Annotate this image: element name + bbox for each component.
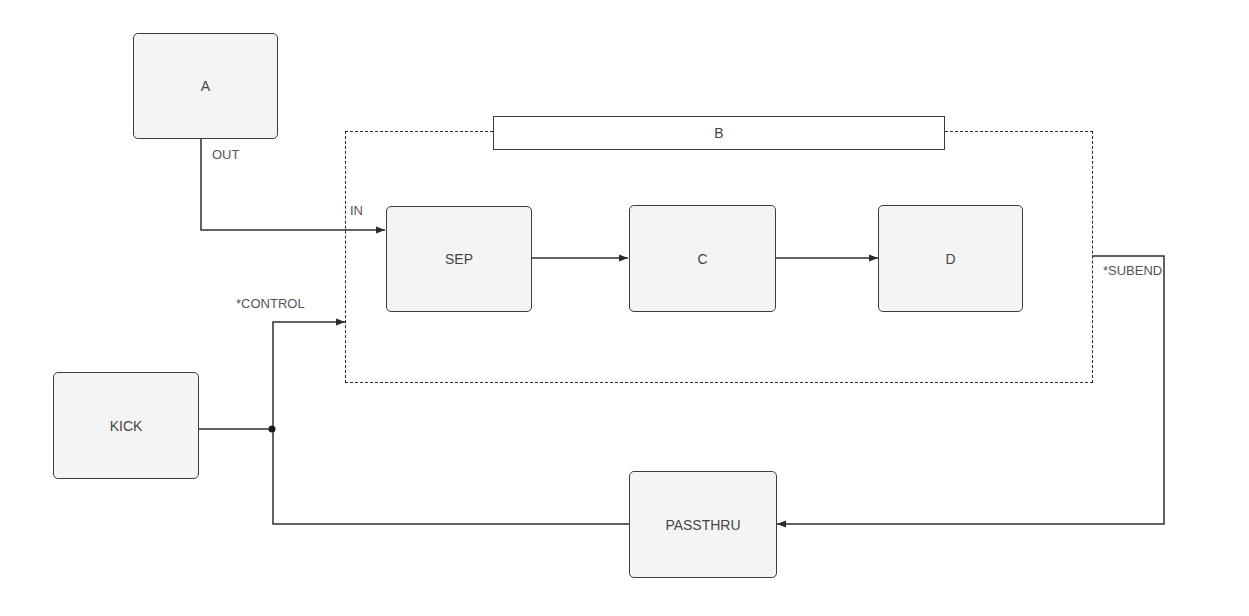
node-d[interactable]: D (878, 205, 1023, 312)
flow-diagram-canvas: B A SEP C D KICK PASSTHRU OUT IN *CONTRO… (0, 0, 1249, 616)
port-label-out: OUT (212, 147, 239, 162)
node-a[interactable]: A (133, 33, 278, 139)
group-b-title[interactable]: B (493, 116, 945, 150)
node-a-label: A (201, 78, 210, 94)
node-passthru[interactable]: PASSTHRU (629, 471, 777, 578)
node-sep[interactable]: SEP (386, 206, 532, 312)
node-c[interactable]: C (629, 205, 776, 312)
port-label-in: IN (350, 203, 363, 218)
junction-dot (269, 426, 276, 433)
port-label-subend: *SUBEND (1103, 263, 1162, 278)
node-kick-label: KICK (110, 418, 143, 434)
node-sep-label: SEP (445, 251, 473, 267)
node-d-label: D (945, 251, 955, 267)
port-label-control: *CONTROL (236, 296, 305, 311)
group-b-label: B (714, 125, 723, 141)
node-kick[interactable]: KICK (53, 372, 199, 479)
node-passthru-label: PASSTHRU (665, 517, 740, 533)
node-c-label: C (697, 251, 707, 267)
